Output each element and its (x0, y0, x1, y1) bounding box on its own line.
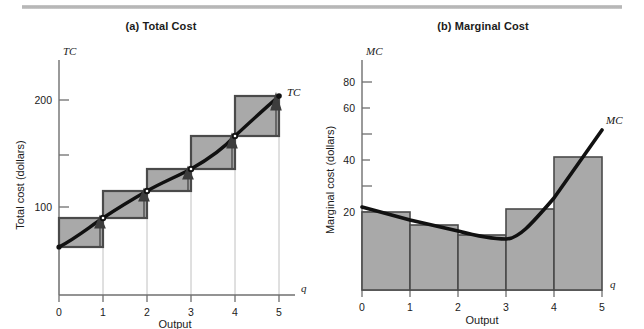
panel-a-curve-label: TC (287, 86, 301, 98)
panel-b-xtick-5: 5 (599, 301, 605, 313)
panel-b-y-symbol: MC (365, 45, 383, 57)
panel-a-xtick-0: 0 (56, 306, 62, 318)
panel-a-ytick-200: 200 (34, 94, 52, 106)
panel-b-y-axis-label: Marginal cost (dollars) (324, 126, 336, 234)
bar-2-3 (458, 235, 506, 290)
panel-a-ytick-100: 100 (34, 201, 52, 213)
panel-a-x-symbol: q (301, 282, 307, 294)
panel-b-x-symbol: q (610, 278, 616, 290)
panel-a-xtick-2: 2 (144, 306, 150, 318)
panel-b-xtick-4: 4 (551, 301, 557, 313)
bar-3-4 (506, 209, 554, 290)
panel-a-x-ticks (59, 295, 279, 302)
panel-a-xtick-3: 3 (188, 306, 194, 318)
panel-marginal-cost: (b) Marginal Cost (322, 0, 644, 329)
panel-b-xtick-3: 3 (503, 301, 509, 313)
panel-b-x-axis-label: Output (465, 314, 498, 326)
panel-a-y-ticks (59, 100, 69, 207)
panel-a-xtick-4: 4 (232, 306, 238, 318)
panel-b-bars (362, 157, 602, 290)
panel-total-cost: (a) Total Cost (0, 0, 322, 329)
panel-b-plot-area: 20 40 60 80 0 1 2 3 4 5 MC q Output Marg… (322, 0, 644, 329)
panel-a-y-symbol: TC (63, 45, 77, 57)
panel-a-x-axis-label: Output (158, 318, 191, 329)
panel-b-xtick-1: 1 (407, 301, 413, 313)
panel-b-curve-label: MC (605, 114, 623, 126)
bar-4-5 (554, 157, 602, 290)
panel-b-ytick-60: 60 (343, 102, 355, 114)
panel-a-y-axis-label: Total cost (dollars) (14, 140, 26, 229)
panel-a-xtick-1: 1 (100, 306, 106, 318)
panel-b-ytick-40: 40 (343, 154, 355, 166)
bar-1-2 (410, 225, 458, 290)
figure-root: (a) Total Cost (0, 0, 644, 329)
panel-b-xtick-2: 2 (455, 301, 461, 313)
panel-b-ytick-80: 80 (343, 76, 355, 88)
panel-b-svg: 20 40 60 80 0 1 2 3 4 5 MC q Output Marg… (322, 0, 644, 329)
panel-b-x-ticks (362, 290, 602, 297)
panel-a-plot-area: 200 100 0 1 2 3 4 5 TC q Output Total co… (0, 0, 322, 329)
panel-a-svg: 200 100 0 1 2 3 4 5 TC q Output Total co… (0, 0, 322, 329)
panel-b-ytick-20: 20 (343, 206, 355, 218)
panel-b-xtick-0: 0 (359, 301, 365, 313)
panel-a-xtick-5: 5 (276, 306, 282, 318)
bar-0-1 (362, 212, 410, 290)
